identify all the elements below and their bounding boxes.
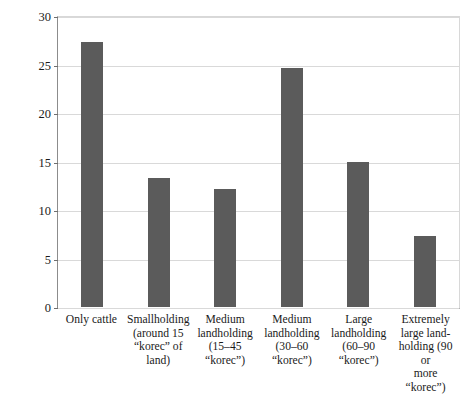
x-axis-label-line: Medium — [193, 313, 258, 327]
x-axis-label-line: “korec”) — [326, 354, 391, 368]
bar[interactable] — [347, 162, 369, 307]
x-axis-label-line: (30–60 — [259, 340, 324, 354]
y-axis-tick-label: 30 — [39, 11, 52, 24]
y-axis-tick — [54, 66, 58, 67]
x-axis-label-line: “korec” of land) — [126, 340, 191, 367]
bar[interactable] — [81, 42, 103, 307]
bar[interactable] — [148, 178, 170, 307]
y-axis-tick-label: 0 — [45, 302, 51, 315]
bar[interactable] — [414, 236, 436, 307]
bars-container — [59, 17, 458, 307]
y-axis-tick-label: 5 — [45, 254, 51, 267]
y-axis-tick-label: 25 — [39, 60, 52, 73]
x-axis-label-line: Extremely — [393, 313, 458, 327]
x-axis-label-line: (60–90 — [326, 340, 391, 354]
bar-slot — [392, 17, 459, 307]
y-axis-tick — [54, 114, 58, 115]
x-axis-label-line: “korec”) — [259, 354, 324, 368]
x-axis-label-line: (around 15 — [126, 327, 191, 341]
y-axis-tick-label: 15 — [39, 157, 52, 170]
bar-slot — [59, 17, 126, 307]
x-axis-label-line: more “korec”) — [393, 367, 458, 394]
x-axis-label: Largelandholding(60–90“korec”) — [325, 313, 392, 395]
x-axis-label-line: holding (90 or — [393, 340, 458, 367]
x-axis-label: Smallholding(around 15“korec” of land) — [125, 313, 192, 395]
x-axis-label-line: (15–45 — [193, 340, 258, 354]
gridline — [58, 308, 459, 309]
y-axis-tick-label: 10 — [39, 205, 52, 218]
y-axis-tick — [54, 260, 58, 261]
bar-slot — [192, 17, 259, 307]
bar-slot — [325, 17, 392, 307]
bar-slot — [126, 17, 193, 307]
plot-area: 051015202530 — [57, 16, 460, 309]
y-axis-tick — [54, 17, 58, 18]
x-axis-label-line: landholding — [259, 327, 324, 341]
y-axis-tick — [54, 308, 58, 309]
x-axis-label: Extremelylarge land-holding (90 ormore “… — [392, 313, 459, 395]
x-axis-label: Mediumlandholding(15–45“korec”) — [192, 313, 259, 395]
x-axis-labels: Only cattleSmallholding(around 15“korec”… — [58, 313, 459, 395]
bar[interactable] — [214, 189, 236, 307]
x-axis-label: Mediumlandholding(30–60“korec”) — [258, 313, 325, 395]
x-axis-label-line: large land- — [393, 327, 458, 341]
bar[interactable] — [281, 68, 303, 307]
x-axis-label-line: Smallholding — [126, 313, 191, 327]
y-axis-tick-label: 20 — [39, 108, 52, 121]
bar-slot — [259, 17, 326, 307]
x-axis-label-line: Only cattle — [59, 313, 124, 327]
y-axis-tick — [54, 163, 58, 164]
x-axis-label: Only cattle — [58, 313, 125, 395]
x-axis-label-line: “korec”) — [193, 354, 258, 368]
x-axis-label-line: Large — [326, 313, 391, 327]
x-axis-label-line: landholding — [326, 327, 391, 341]
x-axis-label-line: landholding — [193, 327, 258, 341]
y-axis-tick — [54, 211, 58, 212]
x-axis-label-line: Medium — [259, 313, 324, 327]
